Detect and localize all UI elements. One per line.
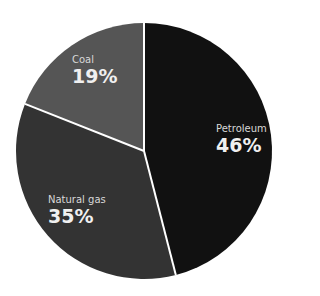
label-petroleum: Petroleum 46% [216, 124, 267, 155]
label-natural-gas: Natural gas 35% [48, 195, 106, 226]
label-name: Coal [72, 55, 117, 65]
label-percent: 19% [72, 67, 117, 86]
label-coal: Coal 19% [72, 55, 117, 86]
label-percent: 46% [216, 136, 267, 155]
label-percent: 35% [48, 207, 106, 226]
label-name: Natural gas [48, 195, 106, 205]
label-name: Petroleum [216, 124, 267, 134]
